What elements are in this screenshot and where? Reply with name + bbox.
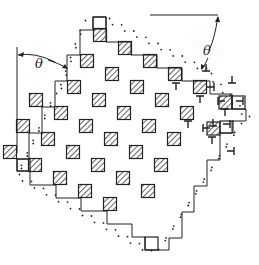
boundary-dot xyxy=(172,55,174,57)
boundary-dot xyxy=(220,83,222,85)
boundary-dot xyxy=(181,214,183,216)
boundary-dot xyxy=(61,88,63,90)
boundary-dot xyxy=(56,93,58,95)
boundary-dot xyxy=(44,114,46,116)
boundary-dot xyxy=(34,187,36,189)
boundary-dot xyxy=(130,242,132,244)
atom-square xyxy=(93,94,106,107)
atom-square xyxy=(144,55,157,68)
boundary-dot xyxy=(173,225,175,227)
atom-square xyxy=(131,81,144,94)
atom-square xyxy=(169,68,182,81)
atom-square xyxy=(30,94,43,107)
boundary-dot xyxy=(124,30,126,32)
atom-square xyxy=(119,42,132,55)
boundary-dot xyxy=(172,228,174,230)
boundary-dot xyxy=(241,113,243,115)
boundary-dot xyxy=(139,243,141,245)
atom-square xyxy=(42,133,55,146)
boundary-dot xyxy=(233,134,235,136)
boundary-dot xyxy=(85,20,87,22)
boundary-dot xyxy=(142,249,144,251)
lattice-diagram: θ θ xyxy=(0,0,259,265)
boundary-dot xyxy=(46,194,48,196)
boundary-dot xyxy=(75,47,77,49)
boundary-dot xyxy=(50,105,52,107)
boundary-dot xyxy=(203,181,205,183)
boundary-dot xyxy=(44,118,46,120)
boundary-dot xyxy=(225,146,227,148)
boundary-dot xyxy=(32,143,34,145)
dislocation-symbol-icon xyxy=(172,83,180,90)
atom-square xyxy=(81,55,94,68)
boundary-dot xyxy=(127,236,129,238)
boundary-dot xyxy=(60,84,62,86)
dislocation-symbol-icon xyxy=(228,76,236,83)
boundary-dot xyxy=(31,181,33,183)
atom-square xyxy=(168,133,181,146)
boundary-dot xyxy=(26,155,28,157)
boundary-dot xyxy=(164,240,166,242)
arrowhead-icon xyxy=(215,16,220,22)
atom-square xyxy=(67,146,80,159)
boundary-dot xyxy=(188,202,190,204)
boundary-dot xyxy=(21,164,23,166)
boundary-dot xyxy=(65,70,67,72)
atom-square xyxy=(155,159,168,172)
boundary-dot xyxy=(91,215,93,217)
boundary-dot xyxy=(38,130,40,132)
boundary-dot xyxy=(121,24,123,26)
boundary-dot xyxy=(19,174,21,176)
boundary-dot xyxy=(26,152,28,154)
boundary-dot xyxy=(115,229,117,231)
boundary-dot xyxy=(38,127,40,129)
atom-square xyxy=(156,94,169,107)
atom-square xyxy=(130,146,143,159)
boundary-dot xyxy=(22,180,24,182)
boundary-dot xyxy=(157,43,159,45)
boundary-dot xyxy=(55,194,57,196)
boundary-dot xyxy=(70,60,72,62)
boundary-dot xyxy=(211,73,213,75)
boundary-dot xyxy=(212,81,214,83)
boundary-dot xyxy=(50,102,52,104)
boundary-dot xyxy=(21,168,23,170)
boundary-dot xyxy=(118,235,120,237)
boundary-dot xyxy=(226,143,228,145)
boundary-dot xyxy=(103,222,105,224)
atom-square xyxy=(17,120,30,133)
boundary-dot xyxy=(180,216,182,218)
boundary-dot xyxy=(219,155,221,157)
boundary-dot xyxy=(211,167,213,169)
boundary-dot xyxy=(184,61,186,63)
boundary-dot xyxy=(106,228,108,230)
boundary-dot xyxy=(65,74,67,76)
boundary-dot xyxy=(74,43,76,45)
atom-square xyxy=(194,81,207,94)
angle-label-left: θ xyxy=(35,56,43,71)
boundary-dot xyxy=(197,68,199,70)
atom-square xyxy=(92,159,105,172)
atom-square xyxy=(106,68,119,81)
boundary-dot xyxy=(70,208,72,210)
boundary-dot xyxy=(94,222,96,224)
lattice-atoms xyxy=(4,29,207,211)
dislocation-symbol-icon xyxy=(236,97,243,105)
boundary-dot xyxy=(169,49,171,51)
boundary-dot xyxy=(80,33,82,35)
atom-square xyxy=(143,120,156,133)
boundary-dot xyxy=(58,201,60,203)
atom-square xyxy=(117,172,130,185)
dislocation-symbol-icon xyxy=(184,121,192,128)
boundary-dot xyxy=(32,139,34,141)
angle-label-right: θ xyxy=(203,43,211,58)
atom-square xyxy=(118,107,131,120)
dislocation-symbol-icon xyxy=(208,137,216,144)
boundary-dot xyxy=(145,36,147,38)
boundary-dot xyxy=(136,36,138,38)
boundary-dot xyxy=(165,237,167,239)
boundary-dot xyxy=(67,201,69,203)
atom-square xyxy=(181,107,194,120)
atom-square xyxy=(68,81,81,94)
atom-square xyxy=(219,96,232,109)
